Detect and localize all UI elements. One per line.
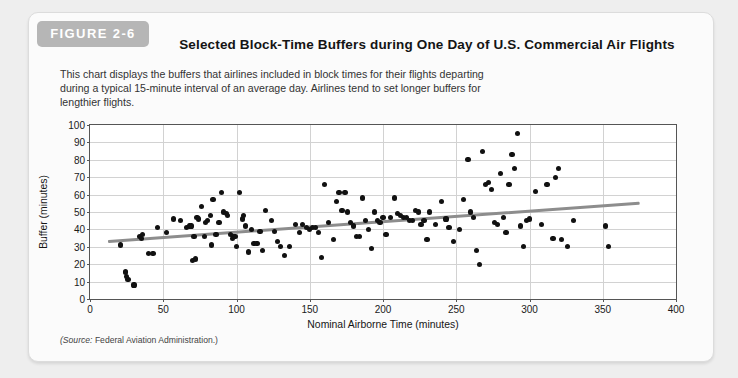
gridline-vertical [310, 125, 311, 299]
scatter-point [269, 218, 274, 223]
y-axis-tick-label: 80 [74, 154, 85, 165]
scatter-point [334, 199, 339, 204]
scatter-point [377, 220, 382, 225]
scatter-point [388, 215, 393, 220]
source-prefix: (Source: [60, 335, 92, 345]
scatter-point [243, 223, 248, 228]
y-axis-label: Buffer (minutes) [38, 175, 49, 249]
x-axis-tick-mark [163, 299, 164, 302]
scatter-point [205, 218, 210, 223]
scatter-point [498, 171, 503, 176]
scatter-point [278, 244, 283, 249]
scatter-point [287, 244, 292, 249]
x-axis-tick-mark [456, 299, 457, 302]
scatter-point [366, 227, 371, 232]
scatter-point [342, 190, 347, 195]
scatter-point [199, 204, 204, 209]
gridline-vertical [603, 125, 604, 299]
scatter-point [209, 242, 214, 247]
scatter-point [480, 149, 485, 154]
y-axis-tick-label: 30 [74, 241, 85, 252]
scatter-point [272, 229, 277, 234]
scatter-chart: Buffer (minutes) Nominal Airborne Time (… [29, 13, 713, 361]
scatter-point [457, 227, 462, 232]
scatter-point [474, 248, 479, 253]
x-axis-tick-label: 100 [228, 304, 245, 315]
y-axis-tick-mark [87, 247, 90, 248]
scatter-point [383, 232, 388, 237]
scatter-point [471, 215, 476, 220]
scatter-point [241, 213, 246, 218]
x-axis-tick-mark [530, 299, 531, 302]
scatter-point [503, 230, 508, 235]
scatter-point [282, 253, 287, 258]
scatter-point [372, 209, 377, 214]
scatter-point [433, 222, 438, 227]
gridline-vertical [456, 125, 457, 299]
scatter-point [331, 237, 336, 242]
scatter-point [606, 244, 611, 249]
x-axis-tick-label: 350 [594, 304, 611, 315]
x-axis-tick-label: 50 [158, 304, 169, 315]
scatter-point [477, 262, 482, 267]
y-axis-tick-label: 20 [74, 259, 85, 270]
plot-area: 0102030405060708090100050100150200250300… [89, 124, 677, 300]
x-axis-tick-mark [90, 299, 91, 302]
scatter-point [515, 131, 520, 136]
gridline-vertical [383, 125, 384, 299]
scatter-point [380, 215, 385, 220]
scatter-point [571, 218, 576, 223]
scatter-point [451, 239, 456, 244]
y-axis-tick-label: 40 [74, 224, 85, 235]
x-axis-tick-label: 0 [87, 304, 93, 315]
scatter-point [319, 255, 324, 260]
x-axis-tick-label: 250 [448, 304, 465, 315]
scatter-point [193, 256, 198, 261]
scatter-point [216, 220, 221, 225]
scatter-point [131, 282, 136, 287]
scatter-point [234, 244, 239, 249]
scatter-point [196, 216, 201, 221]
scatter-point [369, 246, 374, 251]
scatter-point [603, 223, 608, 228]
scatter-point [410, 218, 415, 223]
scatter-point [392, 195, 397, 200]
y-axis-tick-mark [87, 195, 90, 196]
x-axis-tick-label: 300 [521, 304, 538, 315]
x-axis-tick-mark [383, 299, 384, 302]
scatter-point [533, 189, 538, 194]
scatter-point [339, 208, 344, 213]
y-axis-tick-label: 50 [74, 207, 85, 218]
x-axis-tick-mark [310, 299, 311, 302]
source-text: Federal Aviation Administration.) [95, 335, 218, 345]
y-axis-tick-label: 100 [68, 120, 85, 131]
scatter-point [439, 199, 444, 204]
scatter-point [506, 182, 511, 187]
figure-card: FIGURE 2-6 Selected Block-Time Buffers d… [28, 12, 714, 362]
page-background: FIGURE 2-6 Selected Block-Time Buffers d… [0, 0, 738, 378]
y-axis-tick-mark [87, 142, 90, 143]
gridline-vertical [237, 125, 238, 299]
scatter-point [421, 218, 426, 223]
y-axis-tick-label: 70 [74, 172, 85, 183]
scatter-point [254, 241, 259, 246]
y-axis-tick-mark [87, 160, 90, 161]
scatter-point [188, 223, 193, 228]
scatter-point [416, 209, 421, 214]
scatter-point [465, 157, 470, 162]
y-axis-tick-label: 60 [74, 189, 85, 200]
scatter-point [360, 195, 365, 200]
x-axis-tick-label: 150 [301, 304, 318, 315]
scatter-point [208, 213, 213, 218]
scatter-point [150, 251, 155, 256]
scatter-point [446, 225, 451, 230]
scatter-point [461, 197, 466, 202]
scatter-point [213, 232, 218, 237]
scatter-point [118, 242, 123, 247]
x-axis-tick-mark [603, 299, 604, 302]
scatter-point [427, 209, 432, 214]
scatter-point [345, 209, 350, 214]
scatter-point [559, 237, 564, 242]
scatter-point [171, 216, 176, 221]
scatter-point [249, 227, 254, 232]
